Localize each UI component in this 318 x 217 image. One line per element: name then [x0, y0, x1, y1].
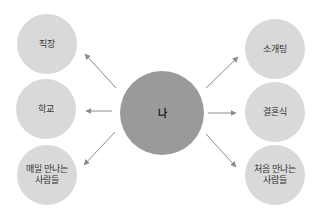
- node-label: 처음 만나는 사람들: [250, 164, 300, 186]
- node-label: 결혼식: [263, 107, 287, 118]
- node-label: 매일 만나는 사람들: [22, 164, 72, 186]
- center-node-me: 나: [120, 71, 204, 155]
- node-new-people: 처음 만나는 사람들: [245, 145, 305, 205]
- arrow-to-daily-people: [84, 132, 115, 165]
- arrow-to-workplace: [85, 54, 116, 88]
- node-wedding: 결혼식: [245, 82, 305, 142]
- node-label: 직장: [39, 39, 55, 50]
- node-school: 학교: [16, 79, 76, 139]
- node-label: 학교: [38, 104, 54, 115]
- arrow-to-new-people: [206, 134, 236, 167]
- node-blind-date: 소개팅: [245, 19, 305, 79]
- arrow-to-blind-date: [206, 57, 238, 88]
- center-node-label: 나: [158, 108, 167, 119]
- node-label: 소개팅: [263, 44, 287, 55]
- node-daily-people: 매일 만나는 사람들: [17, 145, 77, 205]
- node-workplace: 직장: [17, 14, 77, 74]
